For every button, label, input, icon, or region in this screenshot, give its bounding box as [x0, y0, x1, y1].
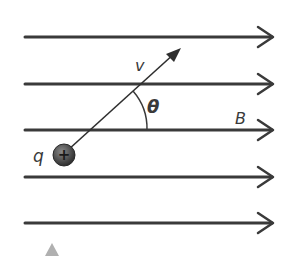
- field-line-1: [25, 27, 273, 47]
- marker-triangle: [45, 243, 59, 256]
- charge-label: q: [33, 146, 44, 166]
- velocity-label: v: [135, 56, 145, 75]
- diagram-canvas: + v θ B q: [0, 0, 294, 256]
- magnetic-field-lines: [25, 27, 273, 233]
- field-line-4: [25, 167, 273, 187]
- field-line-5: [25, 213, 273, 233]
- field-label: B: [235, 109, 246, 128]
- charge-sign: +: [58, 146, 71, 164]
- angle-label: θ: [147, 96, 159, 117]
- velocity-vector: [68, 48, 181, 150]
- angle-arc: [133, 91, 147, 130]
- positive-charge: +: [53, 144, 75, 166]
